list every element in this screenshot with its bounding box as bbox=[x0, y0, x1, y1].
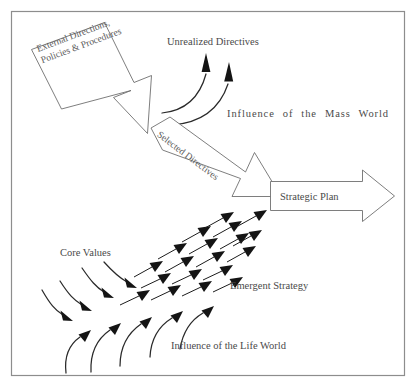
strategic-plan-label: Strategic Plan bbox=[280, 191, 339, 202]
unrealized-directives-label: Unrealized Directives bbox=[167, 36, 259, 47]
influence-mass-world-label: Influence of the Mass World bbox=[227, 108, 389, 119]
core-values-label: Core Values bbox=[60, 247, 111, 258]
diagram-canvas: External Directions, Policies & Procedur… bbox=[0, 0, 416, 387]
strategy-formation-diagram: External Directions, Policies & Procedur… bbox=[0, 0, 416, 387]
influence-life-world-label: Influence of the Life World bbox=[171, 340, 287, 351]
emergent-strategy-label: Emergent Strategy bbox=[230, 280, 309, 291]
